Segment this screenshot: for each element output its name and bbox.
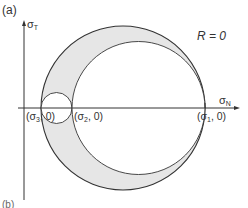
y-axis-subscript: T [34, 24, 38, 31]
next-panel-label: (b) [2, 200, 14, 208]
y-axis-symbol: σ [27, 18, 34, 30]
point-rest: , 0) [211, 110, 226, 122]
point-rest: , 0) [40, 110, 55, 122]
point-label-sigma1: (σ1, 0) [197, 111, 226, 123]
mohr-circle-figure: (a) σT σN R = 0 (σ3, 0) (σ2, 0) (σ1, 0) … [0, 0, 248, 208]
point-symbol: (σ [74, 110, 84, 122]
x-axis-arrow-icon [234, 106, 240, 110]
x-axis-label: σN [219, 95, 231, 107]
point-rest: , 0) [88, 110, 103, 122]
y-axis-label: σT [27, 19, 38, 31]
point-label-sigma2: (σ2, 0) [74, 111, 103, 123]
point-symbol: (σ [197, 110, 207, 122]
x-axis-symbol: σ [219, 94, 226, 106]
point-label-sigma3: (σ3, 0) [26, 111, 55, 123]
r-annotation: R = 0 [197, 30, 226, 42]
point-symbol: (σ [26, 110, 36, 122]
panel-label: (a) [2, 4, 17, 16]
x-axis-subscript: N [226, 100, 231, 107]
y-axis-arrow-icon [22, 20, 26, 26]
